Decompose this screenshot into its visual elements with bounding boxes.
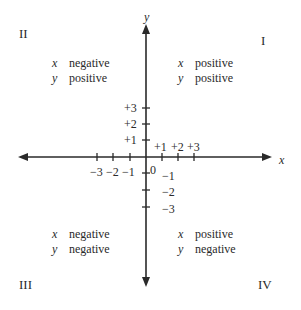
quadrant-III-description: x negative y negative: [52, 227, 110, 257]
y-tick-label: −2: [162, 185, 175, 199]
y-tick-label: −1: [162, 169, 175, 183]
y-axis-up-arrow-icon: [142, 24, 150, 34]
origin-label: 0: [150, 163, 156, 177]
y-tick-label: +3: [124, 101, 137, 115]
x-tick-label: −1: [122, 165, 135, 179]
quadrant-II-description: x negative y positive: [52, 56, 110, 86]
x-tick-label: +2: [171, 140, 184, 154]
quadrant-I-description: x positive y positive: [178, 56, 233, 86]
x-axis-left-arrow-icon: [18, 153, 28, 161]
x-tick-label: +3: [187, 140, 200, 154]
y-tick-label: +2: [124, 117, 137, 131]
quadrant-numeral-IV: IV: [258, 277, 272, 293]
y-axis-down-arrow-icon: [142, 277, 150, 287]
x-axis-label: x: [279, 153, 284, 167]
quadrant-numeral-I: I: [261, 33, 265, 49]
quadrant-numeral-II: II: [19, 26, 28, 42]
y-tick-label: +1: [124, 133, 137, 147]
y-tick-label: −3: [162, 202, 175, 216]
x-tick-label: −2: [106, 165, 119, 179]
x-axis-right-arrow-icon: [262, 153, 272, 161]
coordinate-plane: [0, 0, 301, 310]
quadrant-IV-description: x positive y negative: [178, 227, 236, 257]
y-axis-label: y: [144, 10, 149, 24]
x-tick-label: +1: [154, 140, 167, 154]
x-tick-label: −3: [90, 165, 103, 179]
quadrant-numeral-III: III: [19, 277, 32, 293]
